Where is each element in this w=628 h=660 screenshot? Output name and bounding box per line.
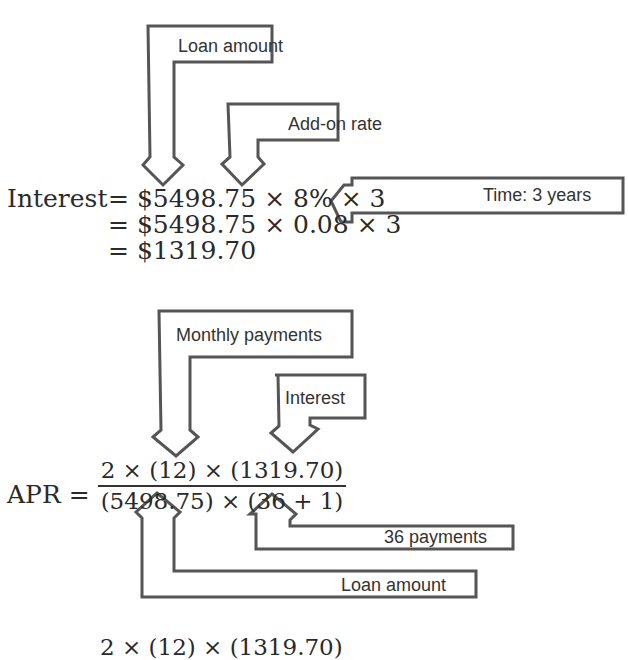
loan-amount-bottom-label: Loan amount (341, 576, 446, 594)
next-line-partial: 2 × (12) × (1319.70) (100, 636, 343, 659)
apr-denominator: (5498.75) × (36 + 1) (98, 489, 346, 514)
loan-amount-label: Loan amount (178, 37, 283, 55)
interest-down-arrow-icon (271, 375, 365, 452)
add-on-rate-label: Add-on rate (288, 115, 382, 133)
interest-lhs: Interest (7, 186, 107, 211)
interest-line-2: = $5498.75 × 0.08 × 3 (108, 212, 401, 237)
apr-fraction: 2 × (12) × (1319.70) (5498.75) × (36 + 1… (98, 458, 346, 515)
interest-label: Interest (285, 389, 345, 407)
fraction-bar (98, 485, 346, 487)
apr-lhs: APR = (7, 482, 90, 507)
interest-line-1: = $5498.75 × 8% × 3 (108, 186, 385, 211)
36-payments-label: 36 payments (384, 528, 487, 546)
apr-numerator: 2 × (12) × (1319.70) (98, 458, 346, 483)
monthly-payments-label: Monthly payments (176, 326, 322, 344)
interest-line-3: = $1319.70 (108, 238, 256, 263)
time-label: Time: 3 years (483, 186, 591, 204)
